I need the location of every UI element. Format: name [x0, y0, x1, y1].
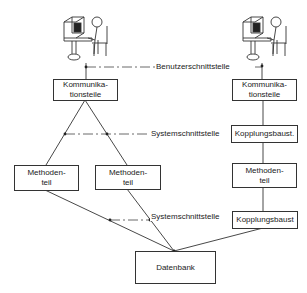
right-communication-box: Kommunika- tionsteile [232, 79, 297, 101]
left-communication-line2: tionsteile [63, 90, 108, 100]
method-b-line2: teil [109, 178, 147, 188]
database-label: Datenbank [156, 263, 195, 273]
right-communication-line1: Kommunika- [242, 80, 287, 90]
user-at-computer-icon [239, 14, 295, 64]
user-at-computer-icon [62, 14, 114, 64]
left-communication-box: Kommunika- tionsteile [53, 79, 118, 101]
right-communication-line2: tionsteile [242, 90, 287, 100]
right-method-box: Methoden- teil [232, 163, 297, 188]
right-method-line1: Methoden- [245, 166, 283, 176]
left-method-b-box: Methoden- teil [95, 165, 161, 190]
right-method-line2: teil [245, 176, 283, 186]
coupling-bottom-label: Kopplungsbaust [236, 215, 293, 225]
system-interface-bottom-label: Systemschnittstelle [150, 212, 220, 221]
method-a-line1: Methoden- [27, 168, 65, 178]
left-communication-line1: Kommunika- [63, 80, 108, 90]
database-box: Datenbank [135, 251, 216, 284]
method-b-line1: Methoden- [109, 168, 147, 178]
method-a-line2: teil [27, 178, 65, 188]
system-interface-top-label: Systemschnittstelle [150, 129, 220, 138]
user-interface-label: Benutzerschnittstelle [155, 62, 231, 71]
left-method-a-box: Methoden- teil [14, 165, 79, 191]
coupling-top-label: Kopplungsbaust. [235, 129, 295, 139]
right-coupling-bottom-box: Kopplungsbaust [232, 211, 298, 229]
right-coupling-top-box: Kopplungsbaust. [231, 125, 298, 143]
